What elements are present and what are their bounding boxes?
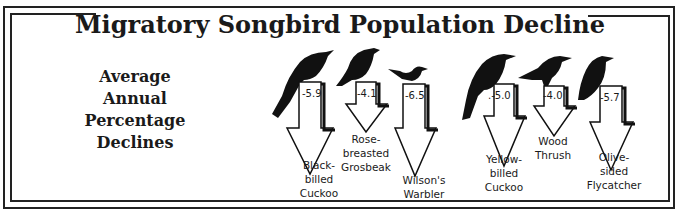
species-line: Olive- [574, 150, 654, 164]
bird-silhouette-icon [518, 52, 574, 88]
frame-inner-left [10, 13, 12, 202]
subtitle-line: Annual [70, 88, 200, 110]
species-line: Warbler [384, 187, 464, 201]
species-label: Wilson's Warbler [384, 173, 464, 201]
species-label: Olive- sided Flycatcher [574, 150, 654, 192]
frame-inner-bottom [10, 200, 670, 202]
species-line: Cuckoo [464, 180, 544, 194]
species-line: billed [464, 166, 544, 180]
species-line: Cuckoo [279, 186, 359, 200]
value-label: -5.9 [302, 88, 322, 99]
value-label: -5.7 [600, 92, 620, 103]
subtitle-line: Percentage [70, 110, 200, 132]
chart-title: Migratory Songbird Population Decline [0, 10, 680, 39]
species-line: Wilson's [384, 173, 464, 187]
subtitle-line: Average [70, 66, 200, 88]
value-label: -4.0 [543, 90, 563, 101]
species-line: sided [574, 164, 654, 178]
species-line: Wood [513, 134, 593, 148]
species-line: billed [279, 172, 359, 186]
frame-inner-right [668, 15, 670, 202]
y-axis-label: Average Annual Percentage Declines [70, 66, 200, 154]
value-label: .-5.0 [488, 90, 511, 101]
value-label: -6.5 [405, 90, 425, 101]
species-line: Flycatcher [574, 178, 654, 192]
subtitle-line: Declines [70, 132, 200, 154]
value-label: -4.1 [357, 88, 377, 99]
